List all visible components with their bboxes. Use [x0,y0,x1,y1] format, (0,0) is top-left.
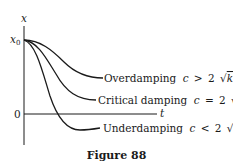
critical-damping-curve [24,40,96,100]
y-axis-label: x [21,12,27,24]
overdamping-label: Overdamping c > 2 √km [104,72,233,84]
underdamping-label: Underdamping c < 2 √km [103,122,233,134]
zero-label: 0 [14,108,21,120]
initial-value-label: x0 [10,33,20,47]
damping-figure: x t 0 x0 Overdamping c > 2 √km Critical … [0,0,233,164]
critical-damping-label: Critical damping c = 2 √km [98,94,233,106]
x-axis-label: t [160,107,165,119]
figure-caption: Figure 88 [0,149,233,162]
underdamping-curve [24,40,100,130]
